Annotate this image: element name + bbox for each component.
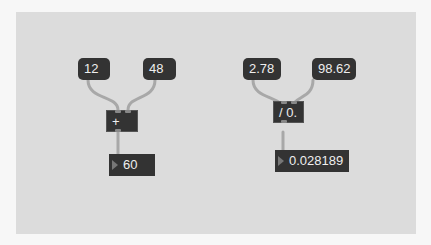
inlet-left[interactable] xyxy=(115,110,121,113)
object-text: / 0. xyxy=(279,105,297,120)
number-box-sum[interactable]: 60 xyxy=(109,154,155,176)
inlet-left[interactable] xyxy=(281,101,287,104)
message-text: 2.78 xyxy=(249,61,274,76)
plus-object[interactable]: + xyxy=(106,110,138,132)
inlet-right[interactable] xyxy=(291,101,297,104)
triangle-icon xyxy=(278,156,284,166)
object-text: + xyxy=(112,114,120,129)
message-box-48[interactable]: 48 xyxy=(143,58,176,80)
message-box-2-78[interactable]: 2.78 xyxy=(243,58,281,80)
inlet-right[interactable] xyxy=(125,110,131,113)
divide-object[interactable]: / 0. xyxy=(273,101,304,123)
outlet[interactable] xyxy=(281,120,287,123)
message-box-98-62[interactable]: 98.62 xyxy=(312,58,356,80)
message-text: 98.62 xyxy=(318,61,351,76)
number-value: 0.028189 xyxy=(289,153,343,168)
message-text: 12 xyxy=(84,61,98,76)
message-text: 48 xyxy=(149,61,163,76)
number-value: 60 xyxy=(123,157,137,172)
message-box-12[interactable]: 12 xyxy=(78,58,110,80)
triangle-icon xyxy=(112,160,118,170)
outlet[interactable] xyxy=(115,129,121,132)
patcher-canvas[interactable] xyxy=(16,12,416,234)
number-box-quotient[interactable]: 0.028189 xyxy=(275,150,349,172)
